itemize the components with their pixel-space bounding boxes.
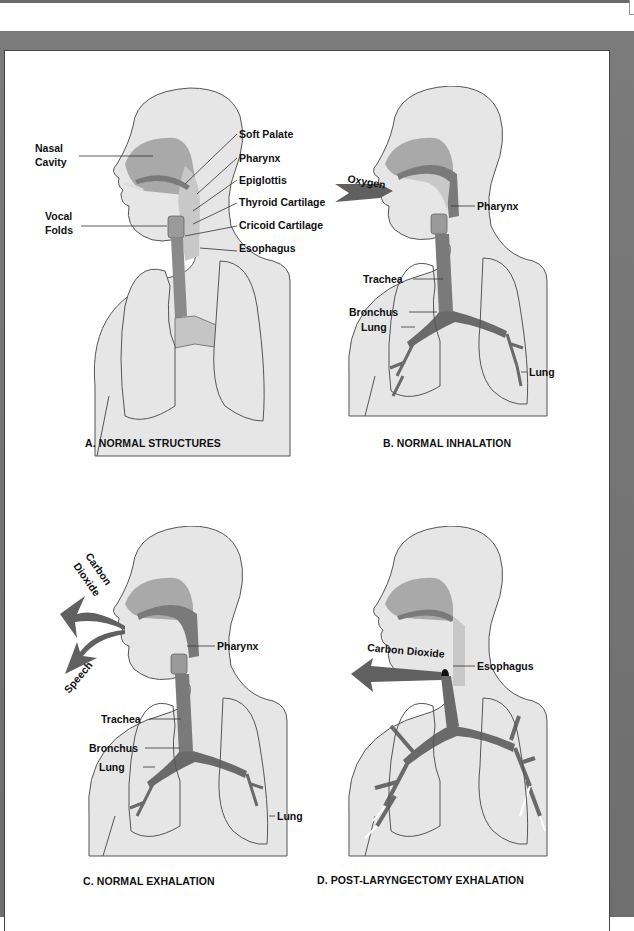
label-pharynx: Pharynx [239, 152, 281, 164]
anatomy-diagram-a: Nasal Cavity Vocal Folds Soft Palate Pha… [25, 86, 325, 466]
page-corner [629, 0, 634, 15]
label-soft-palate: Soft Palate [239, 128, 293, 140]
label-lung-right: Lung [529, 366, 555, 378]
figure-frame: Nasal Cavity Vocal Folds Soft Palate Pha… [0, 31, 634, 917]
anatomy-diagram-b: Oxygen Pharynx Trachea Bronchus Lung Lun… [335, 86, 634, 466]
label-thyroid-cartilage: Thyroid Cartilage [239, 196, 325, 208]
panel-c-normal-exhalation: Carbon Dioxide Speech Pharynx Trachea Br… [25, 526, 325, 906]
speech-arrow-icon [65, 630, 125, 674]
panel-d-post-laryngectomy-exhalation: Carbon Dioxide Esophagus D. POST-LARYNGE… [335, 526, 634, 906]
label-lung-left: Lung [361, 321, 387, 333]
figure-canvas: Nasal Cavity Vocal Folds Soft Palate Pha… [4, 50, 610, 931]
label-vocal: Vocal [45, 210, 72, 222]
caption-a: A. NORMAL STRUCTURES [85, 437, 221, 449]
label-nasal: Nasal [35, 142, 63, 154]
caption-b: B. NORMAL INHALATION [383, 437, 511, 449]
label-cricoid-cartilage: Cricoid Cartilage [239, 219, 323, 231]
label-esophagus: Esophagus [477, 660, 534, 672]
lung-left-shape [121, 269, 175, 419]
label-pharynx: Pharynx [217, 640, 259, 652]
anatomy-diagram-d: Carbon Dioxide Esophagus [335, 526, 634, 906]
label-epiglottis: Epiglottis [239, 174, 287, 186]
caption-c: C. NORMAL EXHALATION [83, 875, 215, 887]
label-cavity: Cavity [35, 156, 67, 168]
panel-a-normal-structures: Nasal Cavity Vocal Folds Soft Palate Pha… [25, 86, 325, 466]
label-esophagus: Esophagus [239, 242, 296, 254]
label-trachea: Trachea [363, 273, 403, 285]
label-bronchus: Bronchus [349, 306, 398, 318]
thyroid-cartilage-shape [168, 216, 184, 238]
label-bronchus: Bronchus [89, 742, 138, 754]
label-lung-right: Lung [277, 810, 303, 822]
label-trachea: Trachea [101, 713, 141, 725]
panel-b-normal-inhalation: Oxygen Pharynx Trachea Bronchus Lung Lun… [335, 86, 634, 466]
caption-d: D. POST-LARYNGECTOMY EXHALATION [317, 874, 524, 886]
label-lung-left: Lung [99, 761, 125, 773]
label-pharynx: Pharynx [477, 200, 519, 212]
anatomy-diagram-c: Carbon Dioxide Speech Pharynx Trachea Br… [25, 526, 325, 906]
label-folds: Folds [45, 224, 73, 236]
top-border [0, 0, 634, 3]
